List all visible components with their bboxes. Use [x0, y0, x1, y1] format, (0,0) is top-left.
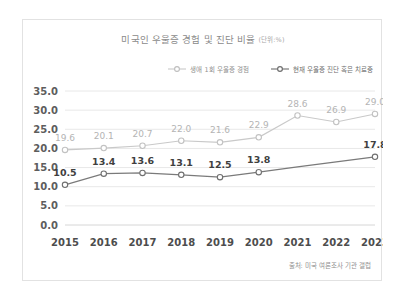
data-point-label: 13.6 [131, 155, 155, 166]
data-point-label: 13.1 [170, 157, 193, 168]
y-axis-tick-labels: 0.05.010.015.020.025.030.035.0 [33, 86, 58, 231]
data-point-marker [372, 111, 377, 116]
chart-card: 미국인 우울증 경험 및 진단 비율 (단위:%) 생애 1회 우울증 경험 현… [22, 19, 382, 281]
x-axis-tick-label: 2015 [51, 237, 79, 248]
data-point-marker [140, 170, 145, 175]
y-axis-tick-label: 30.0 [33, 105, 58, 116]
data-point-marker [334, 119, 339, 124]
y-axis-tick-label: 10.0 [33, 181, 58, 192]
data-point-label: 22.0 [171, 124, 191, 134]
data-point-marker [372, 154, 377, 159]
data-point-label: 20.1 [94, 131, 114, 141]
data-point-label: 12.5 [208, 159, 231, 170]
y-axis-tick-label: 5.0 [40, 200, 58, 211]
line-chart-svg: 0.05.010.015.020.025.030.035.0 201520162… [23, 20, 383, 282]
data-point-marker [217, 174, 222, 179]
data-point-label: 26.9 [326, 105, 346, 115]
data-point-label: 10.5 [53, 167, 76, 178]
x-axis-tick-label: 2017 [129, 237, 157, 248]
x-axis-tick-label: 2022 [322, 237, 350, 248]
x-axis-tick-label: 2016 [90, 237, 118, 248]
data-point-marker [62, 147, 67, 152]
data-point-marker [62, 182, 67, 187]
data-point-label: 13.4 [92, 156, 116, 167]
x-axis-tick-labels: 201520162017201820192020202120222023 [51, 237, 383, 248]
data-point-label: 21.6 [210, 125, 230, 135]
data-point-marker [179, 172, 184, 177]
y-axis-tick-label: 35.0 [33, 86, 58, 97]
data-point-marker [101, 145, 106, 150]
y-axis-tick-label: 20.0 [33, 143, 58, 154]
data-point-marker [256, 135, 261, 140]
data-point-label: 22.9 [249, 120, 269, 130]
x-axis-tick-label: 2018 [167, 237, 195, 248]
data-point-marker [217, 140, 222, 145]
data-point-marker [295, 113, 300, 118]
data-point-marker [256, 169, 261, 174]
chart-plot-area: 0.05.010.015.020.025.030.035.0 201520162… [23, 20, 383, 282]
data-point-marker [101, 171, 106, 176]
source-note: 출처: 미국 여론조사 기관 갤럽 [289, 260, 371, 270]
data-point-label: 17.8 [363, 139, 383, 150]
x-axis-tick-label: 2019 [206, 237, 234, 248]
x-axis-tick-label: 2020 [245, 237, 273, 248]
data-point-marker [179, 138, 184, 143]
data-point-label: 19.6 [55, 133, 75, 143]
data-point-label: 20.7 [132, 129, 152, 139]
x-axis-tick-label: 2023 [361, 237, 383, 248]
y-axis-tick-label: 0.0 [40, 220, 58, 231]
series-markers [62, 111, 377, 187]
data-point-label: 28.6 [287, 99, 307, 109]
data-point-label: 29.0 [365, 97, 383, 107]
x-axis-tick-label: 2021 [284, 237, 312, 248]
data-point-label: 13.8 [247, 154, 271, 165]
series-data-labels: 19.620.120.722.021.622.928.626.929.010.5… [53, 97, 383, 178]
data-point-marker [140, 143, 145, 148]
